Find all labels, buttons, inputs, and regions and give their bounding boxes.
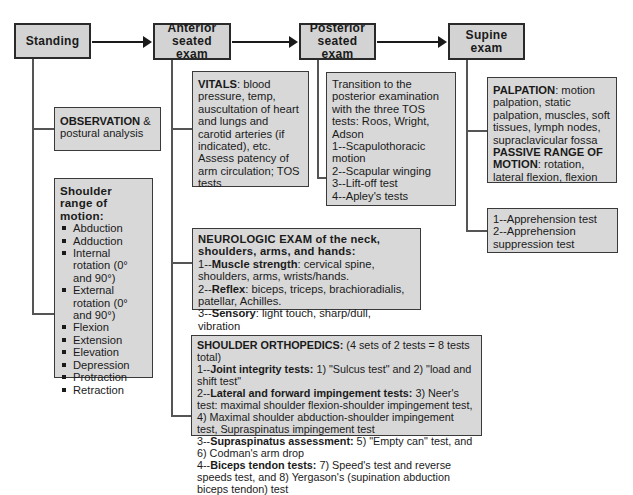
palpation-text: PALPATION: motion palpation, static palp… — [493, 84, 611, 146]
posterior-intro: Transition to the posterior examination … — [332, 78, 450, 140]
rom-item: Extension — [60, 334, 147, 346]
connector-supine-stem — [466, 60, 468, 231]
rom-item: Flexion — [60, 321, 147, 333]
ortho-title: SHOULDER ORTHOPEDICS: (4 sets of 2 tests… — [197, 339, 476, 363]
palpation-box: PALPATION: motion palpation, static palp… — [487, 77, 617, 183]
connector-standing-observation — [32, 128, 54, 130]
rom-item: Adduction — [60, 235, 147, 247]
rom-item: Depression — [60, 359, 147, 371]
posterior-item: 1--Scapulothoracic motion — [332, 140, 450, 165]
arrow-posterior-to-supine — [377, 41, 445, 43]
observation-box: OBSERVATION & postural analysis — [54, 107, 161, 151]
observation-label: OBSERVATION — [60, 115, 140, 127]
vitals-box: VITALS: blood pressure, temp, auscultati… — [192, 71, 309, 187]
passive-rom-text: PASSIVE RANGE OF MOTION: rotation, later… — [493, 146, 611, 183]
ortho-line: 3--Supraspinatus assessment: 5) "Empty c… — [197, 435, 476, 459]
connector-supine-apprehension — [466, 230, 487, 232]
shoulder-rom-list: Abduction Adduction Internal rotation (0… — [60, 222, 147, 396]
vitals-text: : blood pressure, temp, auscultation of … — [198, 78, 300, 189]
ortho-line: 1--Joint integrity tests: 1) "Sulcus tes… — [197, 363, 476, 387]
connector-posterior-stem — [317, 60, 319, 178]
stage-posterior-seated: Posterior seated exam — [299, 23, 376, 60]
posterior-item: 2--Scapular winging — [332, 165, 450, 177]
ortho-line: 4--Biceps tendon tests: 7) Speed's test … — [197, 459, 476, 495]
ortho-line: 2--Lateral and forward impingement tests… — [197, 387, 476, 435]
connector-anterior-stem — [171, 60, 173, 416]
shoulder-orthopedics-box: SHOULDER ORTHOPEDICS: (4 sets of 2 tests… — [191, 335, 482, 436]
apprehension-box: 1--Apprehension test 2--Apprehension sup… — [487, 208, 618, 253]
rom-item: Retraction — [60, 384, 147, 396]
connector-anterior-ortho — [171, 415, 191, 417]
connector-anterior-neuro — [171, 262, 192, 264]
apprehension-item: 2--Apprehension suppression test — [493, 225, 612, 250]
connector-posterior-box — [317, 177, 326, 179]
connector-standing-rom — [32, 313, 54, 315]
vitals-label: VITALS — [198, 78, 237, 90]
posterior-item: 4--Apley's tests — [332, 190, 450, 202]
rom-item: Internal rotation (0° and 90°) — [60, 247, 147, 284]
arrow-anterior-to-posterior — [232, 41, 296, 43]
neurologic-exam-title: NEUROLOGIC EXAM of the neck, shoulders, … — [198, 233, 415, 258]
connector-standing-stem — [32, 59, 34, 314]
stage-standing: Standing — [14, 23, 91, 59]
neuro-line: 3--Sensory: light touch, sharp/dull, vib… — [198, 307, 415, 332]
connector-supine-palpation — [466, 130, 487, 132]
rom-item: External rotation (0° and 90°) — [60, 284, 147, 321]
rom-item: Protraction — [60, 371, 147, 383]
stage-supine: Supine exam — [448, 23, 525, 60]
arrow-standing-to-anterior — [92, 41, 150, 43]
apprehension-item: 1--Apprehension test — [493, 213, 612, 225]
neuro-line: 2--Reflex: biceps, triceps, brachioradia… — [198, 283, 415, 308]
connector-anterior-vitals — [171, 128, 192, 130]
shoulder-rom-title: Shoulder range of motion: — [60, 185, 147, 222]
neurologic-exam-box: NEUROLOGIC EXAM of the neck, shoulders, … — [192, 228, 421, 310]
rom-item: Abduction — [60, 222, 147, 234]
rom-item: Elevation — [60, 346, 147, 358]
neuro-line: 1--Muscle strength: cervical spine, shou… — [198, 258, 415, 283]
posterior-exam-box: Transition to the posterior examination … — [326, 72, 456, 206]
stage-anterior-seated: Anterior seated exam — [153, 23, 231, 60]
posterior-item: 3--Lift-off test — [332, 177, 450, 189]
shoulder-rom-box: Shoulder range of motion: Abduction Addu… — [54, 178, 153, 378]
